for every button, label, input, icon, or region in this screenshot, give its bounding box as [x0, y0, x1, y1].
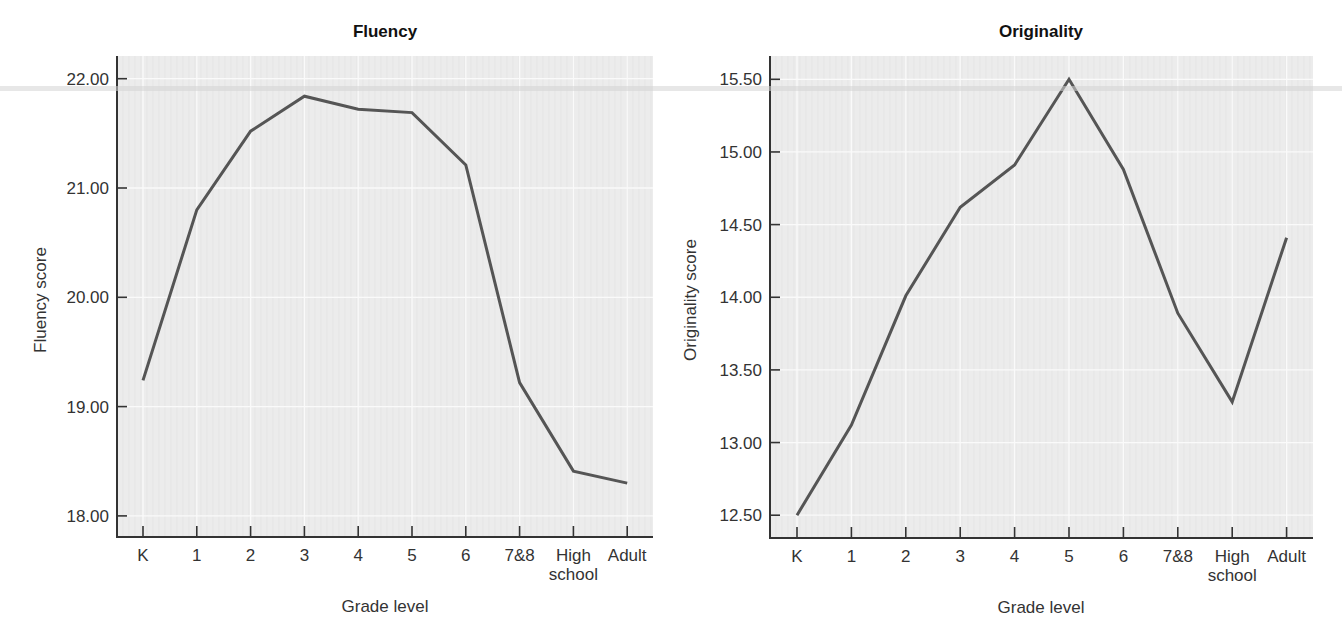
- x-tick-label: 1: [192, 546, 201, 565]
- x-tick-label: 1: [847, 547, 856, 566]
- x-axis-label: Grade level: [998, 598, 1085, 617]
- figure: Fluency 18.0019.0020.0021.0022.00 K12345…: [0, 0, 1342, 644]
- scan-artifact: [0, 86, 1342, 91]
- x-tick-label: K: [791, 547, 803, 566]
- x-tick-label: 5: [407, 546, 416, 565]
- x-tick-label: Adult: [608, 546, 647, 565]
- y-tick-label: 13.00: [719, 434, 762, 453]
- y-tick-label: 20.00: [66, 288, 109, 307]
- y-tick-label: 18.00: [66, 507, 109, 526]
- chart-title: Originality: [999, 22, 1084, 41]
- x-tick-label: High: [1215, 547, 1250, 566]
- y-tick-label: 15.00: [719, 143, 762, 162]
- y-tick-label: 22.00: [66, 70, 109, 89]
- x-tick-label: 7&8: [504, 546, 534, 565]
- x-tick-label: 4: [353, 546, 362, 565]
- y-axis-label: Fluency score: [31, 247, 50, 353]
- x-tick-label: 2: [901, 547, 910, 566]
- chart-canvas: Fluency 18.0019.0020.0021.0022.00 K12345…: [0, 0, 1342, 644]
- x-tick-label: school: [549, 565, 598, 584]
- x-tick-label: 6: [1119, 547, 1128, 566]
- x-tick-label: Adult: [1267, 547, 1306, 566]
- y-tick-label: 21.00: [66, 179, 109, 198]
- x-tick-label: 4: [1010, 547, 1019, 566]
- y-tick-label: 14.50: [719, 216, 762, 235]
- x-axis-label: Grade level: [342, 597, 429, 616]
- chart-title: Fluency: [353, 22, 418, 41]
- x-tick-label: 7&8: [1163, 547, 1193, 566]
- x-tick-label: K: [137, 546, 149, 565]
- x-tick-label: 5: [1064, 547, 1073, 566]
- originality-chart: Originality 12.5013.0013.5014.0014.5015.…: [681, 22, 1313, 617]
- x-tick-label: 3: [955, 547, 964, 566]
- y-tick-label: 19.00: [66, 398, 109, 417]
- y-axis-label: Originality score: [681, 239, 700, 361]
- y-tick-label: 13.50: [719, 361, 762, 380]
- fluency-chart: Fluency 18.0019.0020.0021.0022.00 K12345…: [31, 22, 653, 616]
- x-tick-label: school: [1208, 566, 1257, 585]
- x-tick-label: 6: [461, 546, 470, 565]
- y-tick-label: 14.00: [719, 288, 762, 307]
- x-tick-label: High: [556, 546, 591, 565]
- y-tick-label: 12.50: [719, 506, 762, 525]
- x-tick-label: 3: [300, 546, 309, 565]
- x-tick-label: 2: [246, 546, 255, 565]
